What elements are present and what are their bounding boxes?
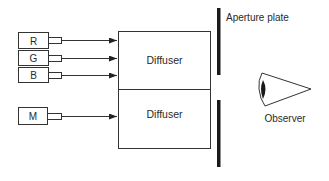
diffuser-top-label: Diffuser bbox=[147, 54, 183, 66]
source-g: G bbox=[19, 51, 118, 66]
aperture-plate-upper bbox=[217, 8, 221, 75]
observer-eye-icon bbox=[259, 73, 311, 106]
aperture-plate-label: Aperture plate bbox=[226, 12, 289, 23]
source-m-label: M bbox=[29, 111, 37, 122]
diffuser-bottom-label: Diffuser bbox=[147, 108, 183, 120]
source-r-label: R bbox=[30, 36, 37, 47]
aperture-plate-lower bbox=[217, 100, 221, 167]
source-g-label: G bbox=[30, 53, 38, 64]
source-b-label: B bbox=[30, 70, 37, 81]
source-m: M bbox=[19, 108, 118, 125]
diffuser-box: Diffuser Diffuser bbox=[119, 32, 211, 149]
observer-label: Observer bbox=[264, 113, 306, 124]
source-r: R bbox=[19, 33, 118, 49]
eye-lens-icon bbox=[261, 80, 266, 99]
color-matching-diagram: R G B M Diffuser Diffuser Aperture plate bbox=[0, 0, 329, 181]
source-b: B bbox=[19, 68, 118, 83]
aperture-plate: Aperture plate bbox=[217, 8, 289, 167]
